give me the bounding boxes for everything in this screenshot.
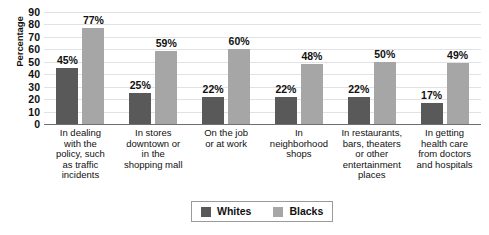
y-tick-label: 60	[14, 44, 40, 54]
legend-label: Blacks	[289, 206, 323, 217]
legend-item-blacks[interactable]: Blacks	[273, 206, 323, 217]
bar	[155, 51, 177, 124]
bar-value-label: 60%	[220, 36, 258, 47]
y-tick-label: 30	[14, 82, 40, 92]
bar-value-label: 45%	[48, 55, 86, 66]
y-tick-label: 80	[14, 19, 40, 29]
gridline	[44, 87, 481, 88]
legend-label: Whites	[217, 206, 251, 217]
legend-swatch-icon	[273, 207, 283, 217]
x-axis-category-label: Inneighborhoodshops	[263, 128, 336, 160]
x-axis-category-label: In restaurants,bars, theatersor otherent…	[335, 128, 408, 181]
y-tick-label: 10	[14, 107, 40, 117]
chart-legend: WhitesBlacks	[191, 201, 333, 222]
bar-value-label: 59%	[147, 38, 185, 49]
y-axis-tick-labels: 9080706050403020100	[8, 0, 40, 135]
bar-value-label: 50%	[366, 49, 404, 60]
bar-value-label: 22%	[194, 84, 232, 95]
gridline	[44, 37, 481, 38]
bar	[348, 97, 370, 124]
y-tick-label: 50	[14, 57, 40, 67]
legend-item-whites[interactable]: Whites	[201, 206, 251, 217]
bar-value-label: 22%	[267, 84, 305, 95]
y-tick-label: 0	[14, 119, 40, 129]
bar-value-label: 17%	[413, 90, 451, 101]
bar	[301, 64, 323, 124]
gridline	[44, 49, 481, 50]
bar-value-label: 49%	[439, 50, 477, 61]
gridline	[44, 74, 481, 75]
bar	[447, 63, 469, 124]
x-axis-category-label: In storesdowntown orin theshopping mall	[117, 128, 190, 170]
bar-value-label: 48%	[293, 51, 331, 62]
x-axis-category-labels: In dealingwith thepolicy, suchas traffic…	[44, 128, 481, 190]
gridline	[44, 112, 481, 113]
bar	[202, 97, 224, 124]
bar	[275, 97, 297, 124]
x-axis-category-label: In dealingwith thepolicy, suchas traffic…	[44, 128, 117, 181]
grouped-bar-chart: Percentage 9080706050403020100 45%77%25%…	[0, 0, 489, 235]
x-axis-category-label: On the jobor at work	[190, 128, 263, 149]
x-axis-category-label: In gettinghealth carefrom doctorsand hos…	[408, 128, 481, 170]
bar	[56, 68, 78, 124]
bar	[374, 62, 396, 124]
y-tick-label: 40	[14, 69, 40, 79]
bar	[228, 49, 250, 124]
legend-swatch-icon	[201, 207, 211, 217]
axis-baseline	[44, 124, 481, 126]
bar-value-label: 22%	[340, 84, 378, 95]
plot-area: 45%77%25%59%22%60%22%48%22%50%17%49%	[44, 12, 481, 124]
y-tick-label: 70	[14, 32, 40, 42]
bar	[129, 93, 151, 124]
bar-value-label: 77%	[74, 15, 112, 26]
bar	[421, 103, 443, 124]
y-tick-label: 20	[14, 94, 40, 104]
gridline	[44, 12, 481, 13]
y-tick-label: 90	[14, 7, 40, 17]
bar-value-label: 25%	[121, 80, 159, 91]
gridline	[44, 62, 481, 63]
bar	[82, 28, 104, 124]
